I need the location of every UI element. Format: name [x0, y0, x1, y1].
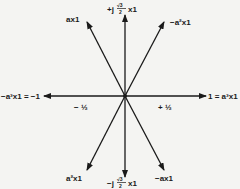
label-minus-j: −j	[107, 179, 114, 188]
label-minus-j-sqrt3: √3	[117, 176, 123, 182]
phasor-diagram: ax1 +j √3 2 x1 −a²x1 1 = a³x1 −a³x1 = −1…	[0, 0, 240, 189]
label-minus-j-x1: x1	[128, 179, 137, 188]
label-plus-half: + ½	[158, 103, 172, 112]
label-ax1: ax1	[66, 15, 80, 24]
vector-a-x1	[87, 22, 125, 96]
origin-dot	[123, 94, 127, 98]
label-neg-ax1: −ax1	[155, 174, 174, 183]
label-one-eq: 1 = a³x1	[208, 92, 238, 101]
label-plus-j-sqrt3: √3	[117, 2, 123, 8]
vector-neg-a2-x1	[125, 22, 164, 96]
label-plus-j: +j	[107, 5, 114, 14]
vector-a2-x1	[87, 96, 125, 170]
label-minus-j-two: 2	[119, 183, 122, 189]
label-neg-a2x1: −a²x1	[170, 18, 191, 27]
label-neg-one-eq: −a³x1 = −1	[1, 92, 40, 101]
label-minus-half: − ½	[74, 103, 88, 112]
label-plus-j-x1: x1	[128, 5, 137, 14]
label-plus-j-two: 2	[119, 9, 122, 15]
label-a2x1: a²x1	[66, 174, 83, 183]
